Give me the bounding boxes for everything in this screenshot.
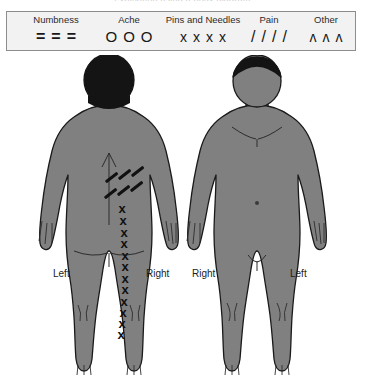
legend-glyph-numbness: =: [51, 27, 60, 47]
legend-glyph-pins-and-needles: x: [180, 27, 187, 47]
legend-label-pain: Pain: [235, 14, 303, 26]
legend-glyph-pain: /: [251, 27, 255, 47]
legend-symbols-ache: OOO: [95, 27, 163, 47]
legend-item-ache: AcheOOO: [95, 14, 163, 47]
front-view-right-label: Left: [290, 268, 307, 279]
legend-glyph-ache: O: [105, 27, 117, 47]
legend-glyph-pain: /: [282, 27, 286, 47]
legend-glyph-other: ʌ: [310, 27, 317, 47]
legend-glyph-pins-and-needles: x: [206, 27, 213, 47]
legend-label-numbness: Numbness: [17, 14, 95, 26]
back-view-left-label: Left: [53, 268, 70, 279]
legend-item-pins-and-needles: Pins and Needlesxxxx: [159, 14, 247, 47]
legend-glyph-pain: /: [262, 27, 266, 47]
legend-glyph-pins-and-needles: x: [193, 27, 200, 47]
legend-item-numbness: Numbness===: [17, 14, 95, 47]
pain-body-diagram: evaluation using a body diagram Numbness…: [0, 0, 365, 381]
legend-glyph-ache: O: [141, 27, 153, 47]
legend-label-pins-and-needles: Pins and Needles: [159, 14, 247, 26]
front-view-left-label: Right: [192, 268, 215, 279]
legend-label-ache: Ache: [95, 14, 163, 26]
body-figures: [0, 55, 365, 381]
legend-glyph-pain: /: [272, 27, 276, 47]
legend-glyph-numbness: =: [67, 27, 76, 47]
legend-glyph-pins-and-needles: x: [219, 27, 226, 47]
legend-symbols-pins-and-needles: xxxx: [159, 27, 247, 47]
figure-caption: evaluation using a body diagram: [0, 0, 365, 1]
legend-symbols-numbness: ===: [17, 27, 95, 47]
legend-glyph-numbness: =: [36, 27, 45, 47]
legend-glyph-ache: O: [123, 27, 135, 47]
legend-items-row: Numbness===AcheOOOPins and NeedlesxxxxPa…: [7, 12, 355, 50]
legend-label-other: Other: [295, 14, 357, 26]
symbol-legend: Numbness===AcheOOOPins and NeedlesxxxxPa…: [6, 11, 356, 51]
legend-symbols-pain: ////: [235, 27, 303, 47]
front-view-body-svg: [170, 55, 345, 381]
legend-symbols-other: ʌʌʌ: [295, 27, 357, 47]
front-view-figure: [170, 55, 345, 381]
legend-glyph-other: ʌ: [323, 27, 330, 47]
legend-item-other: Otherʌʌʌ: [295, 14, 357, 47]
back-view-right-label: Right: [146, 268, 169, 279]
legend-glyph-other: ʌ: [336, 27, 343, 47]
legend-item-pain: Pain////: [235, 14, 303, 47]
